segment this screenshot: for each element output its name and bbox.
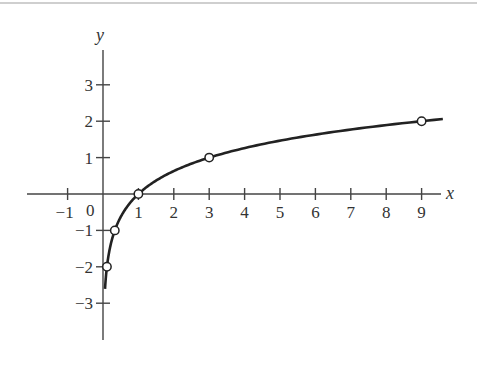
log-function-graph: −1123456789321−1−2−3 x y 0 xyxy=(0,0,477,366)
function-curve xyxy=(105,119,443,289)
y-tick-label: 1 xyxy=(85,149,94,168)
x-tick-label: 4 xyxy=(240,203,249,222)
x-tick-label: 8 xyxy=(382,203,391,222)
x-tick-label: 2 xyxy=(170,203,179,222)
y-axis-label: y xyxy=(94,25,104,45)
origin-label: 0 xyxy=(86,201,95,220)
x-tick-label: −1 xyxy=(56,203,74,222)
x-axis-label: x xyxy=(445,183,454,203)
y-tick-label: −3 xyxy=(75,294,93,313)
x-tick-label: 1 xyxy=(134,203,143,222)
marked-point-circle xyxy=(103,263,111,271)
x-tick-label: 5 xyxy=(276,203,285,222)
x-tick-label: 3 xyxy=(205,203,214,222)
marked-point-circle xyxy=(205,153,213,161)
x-tick-label: 9 xyxy=(417,203,426,222)
marked-point-circle xyxy=(134,190,142,198)
y-tick-label: 2 xyxy=(85,112,94,131)
y-tick-label: −2 xyxy=(75,258,93,277)
x-tick-label: 6 xyxy=(311,203,320,222)
marked-point-circle xyxy=(417,117,425,125)
x-tick-label: 7 xyxy=(347,203,356,222)
marked-point-circle xyxy=(111,226,119,234)
y-tick-label: 3 xyxy=(85,76,94,95)
y-tick-label: −1 xyxy=(75,221,93,240)
